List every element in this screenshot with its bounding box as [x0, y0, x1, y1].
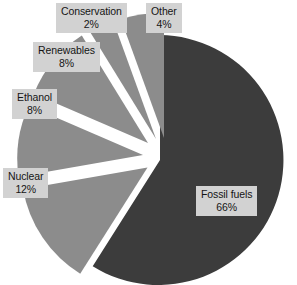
pie-label-ethanol: Ethanol 8%: [12, 89, 57, 119]
pie-label-renewables-value: 8%: [38, 57, 95, 70]
pie-label-fossil-fuels-name: Fossil fuels: [201, 188, 252, 201]
pie-label-conservation: Conservation 2%: [56, 3, 127, 33]
figure-caption: [6, 275, 291, 285]
pie-label-nuclear: Nuclear 12%: [3, 168, 48, 198]
pie-label-nuclear-name: Nuclear: [8, 170, 43, 183]
pie-label-renewables-name: Renewables: [38, 44, 95, 57]
pie-label-conservation-name: Conservation: [61, 5, 122, 18]
pie-label-fossil-fuels-value: 66%: [201, 201, 252, 214]
pie-label-conservation-value: 2%: [61, 18, 122, 31]
pie-label-fossil-fuels: Fossil fuels 66%: [196, 186, 257, 216]
pie-label-other-value: 4%: [151, 18, 177, 31]
pie-label-other: Other 4%: [146, 3, 182, 33]
pie-label-ethanol-value: 8%: [17, 104, 52, 117]
pie-label-ethanol-name: Ethanol: [17, 91, 52, 104]
pie-label-renewables: Renewables 8%: [33, 42, 100, 72]
pie-label-other-name: Other: [151, 5, 177, 18]
pie-chart-figure: Conservation 2% Other 4% Renewables 8% E…: [0, 0, 297, 285]
pie-label-nuclear-value: 12%: [8, 183, 43, 196]
